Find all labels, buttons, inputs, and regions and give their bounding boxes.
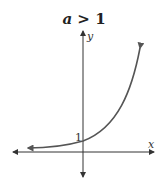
exponential-curve bbox=[28, 48, 140, 148]
exponential-graph: y x 1 bbox=[0, 0, 164, 188]
x-axis-label: x bbox=[148, 138, 155, 151]
y-intercept-label: 1 bbox=[75, 131, 82, 144]
y-axis-label: y bbox=[86, 30, 94, 43]
